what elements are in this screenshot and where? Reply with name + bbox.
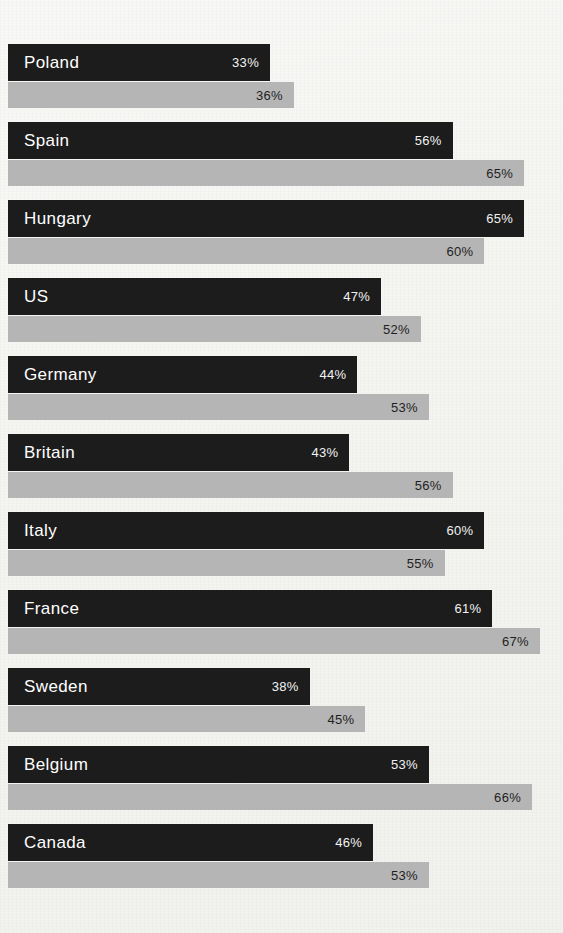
bar-dark: Britain43%: [8, 434, 349, 471]
bar-dark: France61%: [8, 590, 492, 627]
bar-group: Canada46%53%: [0, 824, 563, 888]
bar-value-gray: 53%: [391, 400, 429, 415]
bar-dark: Germany44%: [8, 356, 357, 393]
bar-value-dark: 44%: [319, 367, 357, 382]
bar-value-gray: 67%: [502, 634, 540, 649]
bar-value-dark: 46%: [335, 835, 373, 850]
bar-gray: 52%: [8, 316, 421, 342]
bar-group: Germany44%53%: [0, 356, 563, 420]
country-label: Belgium: [24, 755, 88, 775]
bar-dark: Spain56%: [8, 122, 453, 159]
country-label: Germany: [24, 365, 97, 385]
bar-group: Belgium53%66%: [0, 746, 563, 810]
bar-value-gray: 66%: [494, 790, 532, 805]
country-label: Britain: [24, 443, 75, 463]
bar-value-gray: 36%: [256, 88, 294, 103]
bar-gray: 56%: [8, 472, 453, 498]
bar-gray: 53%: [8, 394, 429, 420]
bar-gray: 65%: [8, 160, 524, 186]
bar-dark: Belgium53%: [8, 746, 429, 783]
bar-dark: Italy60%: [8, 512, 484, 549]
country-label: Italy: [24, 521, 57, 541]
country-label: Sweden: [24, 677, 88, 697]
chart-sheet: Poland33%36%Spain56%65%Hungary65%60%US47…: [0, 0, 563, 933]
bar-group: Italy60%55%: [0, 512, 563, 576]
bar-group: Hungary65%60%: [0, 200, 563, 264]
bar-gray: 66%: [8, 784, 532, 810]
bar-value-dark: 56%: [415, 133, 453, 148]
bar-value-gray: 52%: [383, 322, 421, 337]
bar-value-dark: 53%: [391, 757, 429, 772]
country-label: Hungary: [24, 209, 91, 229]
bar-dark: Canada46%: [8, 824, 373, 861]
bar-gray: 53%: [8, 862, 429, 888]
bar-value-gray: 56%: [415, 478, 453, 493]
bar-dark: Poland33%: [8, 44, 270, 81]
bar-value-dark: 33%: [232, 55, 270, 70]
bar-value-gray: 55%: [407, 556, 445, 571]
bar-gray: 67%: [8, 628, 540, 654]
bar-value-dark: 61%: [454, 601, 492, 616]
bar-group: Britain43%56%: [0, 434, 563, 498]
bar-gray: 60%: [8, 238, 484, 264]
bar-value-dark: 60%: [446, 523, 484, 538]
bar-gray: 55%: [8, 550, 445, 576]
bar-value-dark: 38%: [272, 679, 310, 694]
bar-group: Sweden38%45%: [0, 668, 563, 732]
bar-dark: Hungary65%: [8, 200, 524, 237]
bar-value-gray: 65%: [486, 166, 524, 181]
paired-bar-chart: Poland33%36%Spain56%65%Hungary65%60%US47…: [0, 0, 563, 933]
country-label: Canada: [24, 833, 86, 853]
bar-value-dark: 65%: [486, 211, 524, 226]
bar-dark: Sweden38%: [8, 668, 310, 705]
bar-gray: 36%: [8, 82, 294, 108]
country-label: Spain: [24, 131, 69, 151]
country-label: Poland: [24, 53, 79, 73]
bar-group: Poland33%36%: [0, 44, 563, 108]
bar-group: France61%67%: [0, 590, 563, 654]
bar-value-dark: 43%: [311, 445, 349, 460]
bar-gray: 45%: [8, 706, 365, 732]
bar-group: Spain56%65%: [0, 122, 563, 186]
bar-value-gray: 45%: [327, 712, 365, 727]
bar-dark: US47%: [8, 278, 381, 315]
bar-value-gray: 60%: [446, 244, 484, 259]
country-label: France: [24, 599, 79, 619]
bar-value-gray: 53%: [391, 868, 429, 883]
country-label: US: [24, 287, 48, 307]
bar-group: US47%52%: [0, 278, 563, 342]
bar-value-dark: 47%: [343, 289, 381, 304]
